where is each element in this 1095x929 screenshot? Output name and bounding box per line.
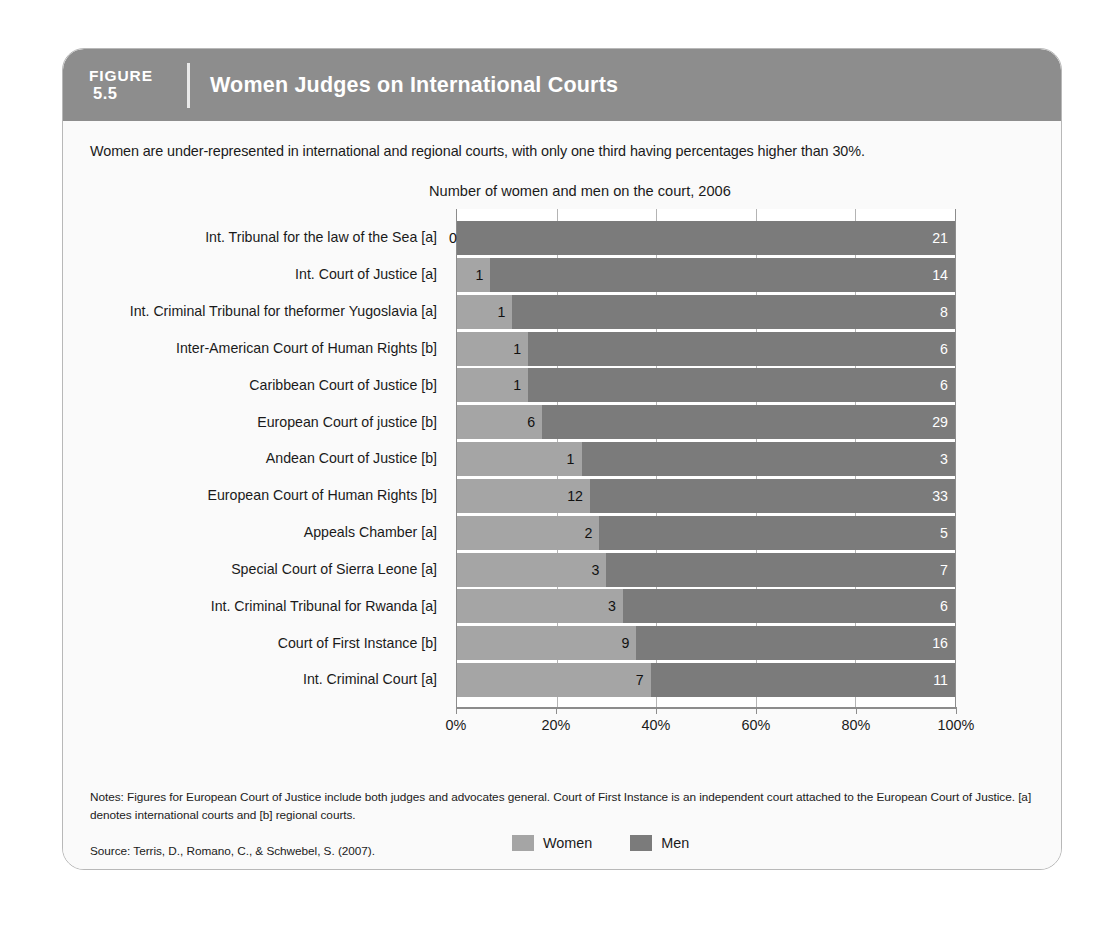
bar-row: 114 [457, 258, 955, 292]
bar-segment-women: 2 [457, 516, 599, 550]
y-axis-label: Int. Tribunal for the law of the Sea [a] [90, 221, 447, 255]
y-axis-label: Int. Criminal Tribunal for Rwanda [a] [90, 589, 447, 623]
y-axis-label: Court of First Instance [b] [90, 626, 447, 660]
x-axis-tick-label: 0% [446, 717, 467, 733]
bar-value-men: 6 [940, 341, 955, 357]
bar-segment-men: 29 [542, 405, 955, 439]
x-axis-tickmark [856, 707, 857, 714]
bar-row: 16 [457, 332, 955, 366]
bar-value-women: 7 [636, 672, 651, 688]
bar-rows: 021114181616629131233253736916711 [457, 221, 955, 700]
bar-value-men: 3 [940, 451, 955, 467]
plot-frame: 021114181616629131233253736916711 [456, 209, 956, 707]
bar-segment-men: 6 [528, 368, 955, 402]
bar-segment-women: 9 [457, 626, 636, 660]
bar-row: 021 [457, 221, 955, 255]
x-axis-tick-label: 40% [642, 717, 671, 733]
y-axis-label: European Court of Human Rights [b] [90, 479, 447, 513]
bar-segment-men: 6 [528, 332, 955, 366]
bar-segment-men: 6 [623, 589, 955, 623]
bar-value-men: 29 [932, 414, 955, 430]
bar-row: 629 [457, 405, 955, 439]
bar-row: 711 [457, 663, 955, 697]
bar-value-men: 33 [932, 488, 955, 504]
bar-segment-men: 11 [651, 663, 955, 697]
bar-segment-women: 7 [457, 663, 651, 697]
bar-value-men: 7 [940, 562, 955, 578]
bar-value-women: 3 [592, 562, 607, 578]
x-axis-tickmark [756, 707, 757, 714]
figure-source: Source: Terris, D., Romano, C., & Schweb… [90, 844, 1035, 858]
figure-number: 5.5 [89, 84, 181, 102]
bar-segment-men: 16 [636, 626, 955, 660]
bar-segment-women: 1 [457, 258, 490, 292]
figure-subtitle: Women are under-represented in internati… [90, 143, 865, 159]
bar-value-men: 5 [940, 525, 955, 541]
figure-body: Women are under-represented in internati… [63, 121, 1061, 869]
bar-segment-women: 1 [457, 442, 582, 476]
bar-value-women: 2 [585, 525, 600, 541]
bar-segment-men: 3 [582, 442, 956, 476]
bar-value-men: 6 [940, 598, 955, 614]
bar-value-women: 1 [497, 304, 512, 320]
y-axis-label: Int. Criminal Court [a] [90, 663, 447, 697]
y-axis-label: Andean Court of Justice [b] [90, 442, 447, 476]
x-axis-tick-label: 20% [542, 717, 571, 733]
x-axis-tick-label: 80% [842, 717, 871, 733]
y-axis-label: Caribbean Court of Justice [b] [90, 368, 447, 402]
bar-value-women: 6 [527, 414, 542, 430]
bar-value-women: 12 [567, 488, 590, 504]
bar-value-men: 16 [932, 635, 955, 651]
bar-row: 36 [457, 589, 955, 623]
y-axis-label: European Court of justice [b] [90, 405, 447, 439]
chart-title: Number of women and men on the court, 20… [429, 183, 731, 199]
bar-row: 37 [457, 553, 955, 587]
bar-segment-women: 1 [457, 368, 528, 402]
bar-value-women: 3 [608, 598, 623, 614]
bar-value-men: 14 [932, 267, 955, 283]
bar-value-men: 21 [932, 230, 955, 246]
bar-segment-men: 7 [606, 553, 955, 587]
x-axis-tick-label: 60% [742, 717, 771, 733]
bar-value-men: 6 [940, 377, 955, 393]
x-axis-line [456, 707, 956, 709]
bar-value-men: 11 [933, 672, 955, 688]
y-axis-labels: Int. Tribunal for the law of the Sea [a]… [90, 221, 447, 700]
bar-segment-men: 14 [490, 258, 955, 292]
y-axis-label: Appeals Chamber [a] [90, 516, 447, 550]
bar-value-women: 1 [567, 451, 582, 467]
bar-value-women: 9 [621, 635, 636, 651]
page-title: Women Judges on International Courts [210, 73, 618, 98]
bar-segment-women: 6 [457, 405, 542, 439]
bar-segment-men: 33 [590, 479, 955, 513]
bar-row: 1233 [457, 479, 955, 513]
chart-area: Int. Tribunal for the law of the Sea [a]… [90, 209, 1030, 739]
x-axis-tickmark [956, 707, 957, 714]
bar-value-men: 8 [940, 304, 955, 320]
bar-row: 13 [457, 442, 955, 476]
bar-segment-women: 3 [457, 589, 623, 623]
bar-row: 25 [457, 516, 955, 550]
x-axis-tick-label: 100% [938, 717, 975, 733]
bar-value-women: 0 [444, 230, 457, 246]
figure-card: FIGURE 5.5 Women Judges on International… [62, 48, 1062, 870]
x-axis-tickmark [556, 707, 557, 714]
bar-row: 18 [457, 295, 955, 329]
bar-segment-women: 1 [457, 332, 528, 366]
bar-row: 916 [457, 626, 955, 660]
header-divider [187, 63, 190, 108]
y-axis-label: Int. Court of Justice [a] [90, 258, 447, 292]
bar-segment-men: 5 [599, 516, 955, 550]
bar-value-women: 1 [475, 267, 490, 283]
x-axis-tickmark [456, 707, 457, 714]
x-axis-tickmark [656, 707, 657, 714]
y-axis-label: Inter-American Court of Human Rights [b] [90, 332, 447, 366]
bar-segment-women: 1 [457, 295, 512, 329]
figure-badge: FIGURE 5.5 [89, 67, 181, 103]
bar-value-women: 1 [513, 341, 528, 357]
figure-label-word: FIGURE [89, 67, 181, 84]
y-axis-label: Special Court of Sierra Leone [a] [90, 553, 447, 587]
bar-segment-women: 3 [457, 553, 606, 587]
bar-row: 16 [457, 368, 955, 402]
bar-segment-men: 8 [512, 295, 955, 329]
